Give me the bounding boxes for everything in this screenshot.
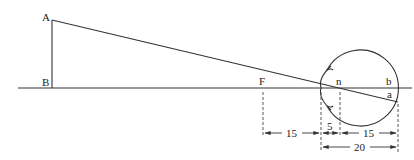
label-n: n (336, 75, 342, 87)
diagram-canvas: A B F n b a 15 5 15 20 (0, 0, 414, 160)
dim-label-cornea-to-n: 5 (327, 120, 333, 132)
ray-A-to-a (52, 20, 398, 102)
label-b: b (386, 75, 392, 87)
cornea-bottom-tip (327, 106, 333, 107)
label-a: a (387, 88, 392, 100)
label-B: B (42, 76, 49, 88)
dim-label-n-to-retina: 15 (363, 127, 375, 139)
label-F: F (259, 75, 265, 87)
dim-label-F-to-cornea: 15 (286, 127, 298, 139)
label-A: A (42, 11, 50, 23)
dim-label-cornea-to-retina: 20 (354, 141, 366, 153)
cornea-top-tip (327, 69, 333, 70)
